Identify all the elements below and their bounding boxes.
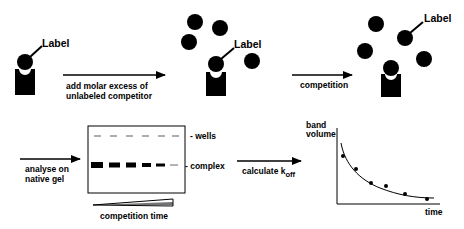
label-text: Label <box>234 38 262 50</box>
band-lane-6 <box>170 164 178 166</box>
data-point <box>403 192 407 196</box>
native-gel: - wells - complex competition time <box>88 126 225 221</box>
competitor-ligand-icon <box>212 20 228 36</box>
step1-arrow: add molar excess of unlabeled competitor <box>63 75 165 101</box>
competitor-ligand-icon <box>357 43 373 59</box>
time-label: competition time <box>100 211 168 221</box>
step1-bound-complex: Label <box>15 37 70 95</box>
step2-arrow: competition <box>292 75 352 90</box>
x-axis-label: time <box>425 207 443 217</box>
arrow-label-line2: native gel <box>25 174 64 184</box>
arrow-label: competition <box>300 80 348 90</box>
chart-axes <box>337 128 440 204</box>
label-pointer <box>221 48 234 59</box>
step3-label-released: Label <box>357 12 452 97</box>
label-pointer <box>30 46 42 57</box>
receptor-icon <box>15 69 35 95</box>
data-point <box>384 184 388 188</box>
label-text: Label <box>424 12 452 24</box>
competitor-ligand-icon <box>244 53 260 69</box>
complex-label: - complex <box>185 161 225 171</box>
band-lane-3 <box>126 163 136 168</box>
arrow-label-subscript: off <box>285 170 295 179</box>
label-text: Label <box>42 37 70 49</box>
receptor-icon <box>206 72 226 96</box>
data-points <box>341 154 429 201</box>
decay-chart: band volume time <box>306 120 443 217</box>
receptor-icon <box>381 74 401 97</box>
analysis-arrow: calculate koff <box>237 161 301 179</box>
gel-complex-bands <box>91 162 178 168</box>
competitor-ligand-icon <box>383 60 399 76</box>
arrow-label-line1: add molar excess of <box>66 81 148 91</box>
data-point <box>354 167 358 171</box>
competitor-ligand-icon <box>181 34 197 50</box>
y-axis-label-line2: volume <box>306 129 336 139</box>
gel-frame <box>88 126 185 193</box>
band-lane-5 <box>156 164 165 167</box>
gel-arrow: analyse on native gel <box>20 159 80 184</box>
competitor-ligand-icon <box>416 51 432 67</box>
wells-label: - wells <box>190 131 216 141</box>
band-lane-4 <box>142 163 151 167</box>
arrow-label-main: calculate k <box>242 166 286 176</box>
data-point <box>341 154 345 158</box>
arrow-label: calculate koff <box>242 166 296 179</box>
data-point <box>369 181 373 185</box>
data-point <box>425 197 429 201</box>
competitor-ligand-icon <box>187 14 203 30</box>
label-pointer <box>410 22 423 33</box>
arrow-label-line1: analyse on <box>25 164 69 174</box>
arrow-label-line2: unlabeled competitor <box>66 91 153 101</box>
competitor-ligand-icon <box>368 16 384 32</box>
step2-competitor-added: Label <box>181 14 262 96</box>
competition-assay-diagram: Label add molar excess of unlabeled comp… <box>0 0 464 229</box>
band-lane-1 <box>91 162 103 168</box>
band-lane-2 <box>109 163 120 168</box>
